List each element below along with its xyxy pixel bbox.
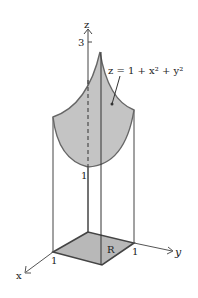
y-axis-label: y [174, 246, 182, 259]
x-axis [26, 252, 53, 272]
x-tick-1-label: 1 [51, 255, 57, 266]
z-tick-3-label: 3 [78, 37, 84, 48]
z-tick-1-label: 1 [81, 170, 87, 181]
x-axis-label: x [16, 270, 22, 281]
y-axis [134, 243, 172, 251]
y-tick-1-label: 1 [132, 246, 138, 257]
diagram-canvas: z 3 z = 1 + x² + y² 1 R 1 1 y x [0, 0, 198, 298]
region-r [53, 232, 134, 265]
equation-label: z = 1 + x² + y² [108, 65, 183, 76]
region-label: R [107, 244, 115, 255]
z-axis-label: z [84, 19, 89, 30]
equation-pointer-dot [111, 103, 114, 106]
